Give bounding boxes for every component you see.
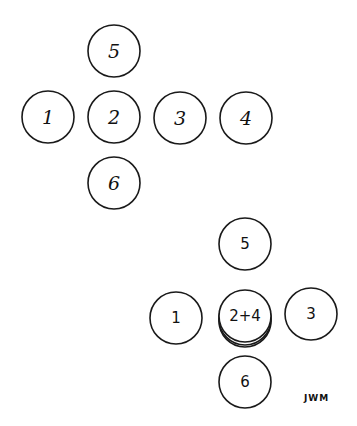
svg-text:5: 5 bbox=[240, 235, 250, 253]
top-cross-group: 5 1 2 3 4 6 bbox=[22, 25, 272, 209]
svg-text:3: 3 bbox=[174, 107, 186, 129]
svg-text:4: 4 bbox=[239, 107, 252, 129]
svg-text:6: 6 bbox=[108, 172, 120, 194]
svg-text:2+4: 2+4 bbox=[229, 307, 261, 325]
circle-6-top: 6 bbox=[88, 157, 140, 209]
svg-text:1: 1 bbox=[42, 106, 54, 128]
cube-net-diagram: 5 1 2 3 4 6 5 1 bbox=[0, 0, 357, 426]
svg-text:6: 6 bbox=[240, 373, 250, 391]
svg-text:5: 5 bbox=[108, 40, 120, 62]
svg-text:1: 1 bbox=[171, 309, 181, 327]
circle-3-top: 3 bbox=[154, 92, 206, 144]
svg-text:3: 3 bbox=[306, 305, 316, 323]
circle-2-top: 2 bbox=[88, 91, 140, 143]
bottom-cross-group: 5 1 2+4 3 6 bbox=[150, 218, 337, 408]
circle-3-bottom: 3 bbox=[285, 288, 337, 340]
circle-6-bottom: 6 bbox=[219, 356, 271, 408]
circle-1-bottom: 1 bbox=[150, 292, 202, 344]
svg-text:2: 2 bbox=[107, 106, 120, 128]
circle-2-plus-4-stacked: 2+4 bbox=[219, 290, 271, 347]
circle-1-top: 1 bbox=[22, 91, 74, 143]
signature-jwm: JWM bbox=[303, 393, 329, 403]
circle-4-top: 4 bbox=[220, 92, 272, 144]
circle-5-top: 5 bbox=[88, 25, 140, 77]
circle-5-bottom: 5 bbox=[219, 218, 271, 270]
